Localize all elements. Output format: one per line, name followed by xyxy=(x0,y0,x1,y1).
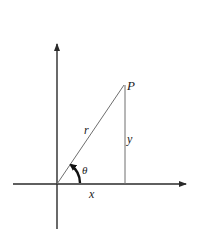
angle-label: θ xyxy=(82,164,88,176)
radius-label: r xyxy=(84,123,89,137)
horizontal-label: x xyxy=(88,187,95,201)
point-label: P xyxy=(126,78,135,93)
polar-coordinate-diagram: P r y θ x xyxy=(0,0,202,236)
radius-line xyxy=(57,85,124,184)
vertical-label: y xyxy=(126,132,133,146)
angle-arc-icon xyxy=(71,165,80,183)
